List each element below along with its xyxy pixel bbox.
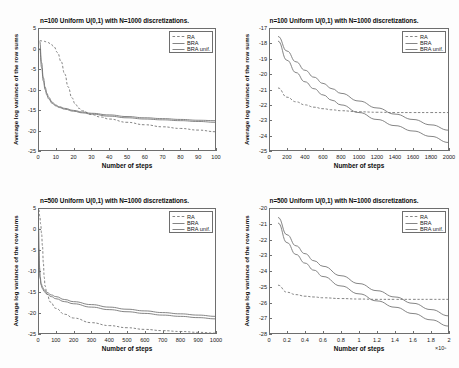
legend-line-swatch — [405, 221, 418, 226]
series-line-bra — [278, 41, 449, 142]
series-line-bra-unif — [39, 227, 216, 316]
legend-item-label: RA — [187, 214, 195, 220]
legend-item-label: BRA — [187, 40, 199, 46]
chart-legend: RABRABRA unif. — [402, 31, 446, 53]
legend-item-label: BRA — [420, 220, 432, 226]
legend-line-swatch — [405, 41, 418, 46]
legend-item: BRA unif. — [405, 46, 443, 52]
legend-line-swatch — [405, 214, 418, 219]
legend-item-label: BRA unif. — [420, 226, 443, 232]
legend-item: BRA unif. — [172, 226, 210, 232]
legend-line-swatch — [172, 41, 185, 46]
legend-item-label: RA — [187, 34, 195, 40]
legend-item-label: BRA — [187, 220, 199, 226]
chart-curves — [229, 0, 459, 183]
legend-line-swatch — [405, 227, 418, 232]
series-line-bra — [278, 223, 449, 326]
legend-line-swatch — [172, 214, 185, 219]
figure-grid: n=100 Uniform U(0,1) with N=1000 discret… — [0, 0, 459, 368]
series-line-ra — [278, 285, 449, 299]
legend-line-swatch — [405, 47, 418, 52]
legend-item-label: RA — [420, 214, 428, 220]
chart-legend: RABRABRA unif. — [169, 31, 213, 53]
chart-panel-top-left: n=100 Uniform U(0,1) with N=1000 discret… — [0, 0, 229, 183]
legend-line-swatch — [172, 34, 185, 39]
chart-legend: RABRABRA unif. — [402, 211, 446, 233]
legend-line-swatch — [172, 227, 185, 232]
legend-item-label: BRA unif. — [187, 226, 210, 232]
legend-line-swatch — [172, 47, 185, 52]
legend-item: BRA unif. — [172, 46, 210, 52]
series-line-bra — [39, 228, 216, 319]
chart-panel-bottom-right: n=500 Uniform U(0,1) with N=1000 discret… — [229, 183, 459, 368]
legend-item-label: BRA — [420, 40, 432, 46]
chart-legend: RABRABRA unif. — [169, 211, 213, 233]
legend-item-label: BRA unif. — [420, 46, 443, 52]
series-line-bra — [40, 48, 216, 122]
legend-item-label: BRA unif. — [187, 46, 210, 52]
chart-panel-top-right: n=100 Uniform U(0,1) with N=1000 discret… — [229, 0, 459, 183]
chart-curves — [0, 0, 229, 183]
legend-item: BRA unif. — [405, 226, 443, 232]
legend-line-swatch — [172, 221, 185, 226]
legend-line-swatch — [405, 34, 418, 39]
series-line-bra-unif — [40, 42, 216, 121]
chart-panel-bottom-left: n=500 Uniform U(0,1) with N=1000 discret… — [0, 183, 229, 368]
series-line-ra — [278, 88, 449, 113]
legend-item-label: RA — [420, 34, 428, 40]
